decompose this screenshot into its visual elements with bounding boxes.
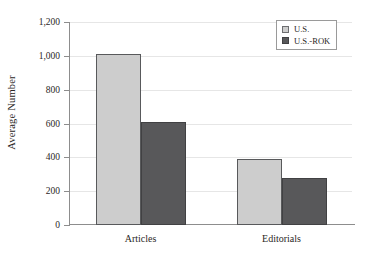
bar-chart: Average Number 02004006008001,0001,200 A… (0, 0, 367, 267)
y-tick-mark (64, 56, 70, 57)
legend-swatch-icon (282, 26, 289, 33)
y-tick-mark (64, 124, 70, 125)
category-label: Editorials (262, 233, 301, 244)
y-tick-mark (64, 225, 70, 226)
y-tick-mark (64, 90, 70, 91)
bar-articles-u-s (96, 54, 141, 225)
chart-legend: U.S.U.S.-ROK (276, 20, 337, 50)
y-tick-label: 800 (0, 85, 60, 95)
legend-entry: U.S.-ROK (282, 37, 330, 46)
y-tick-label: 0 (0, 220, 60, 230)
legend-label: U.S. (294, 25, 309, 34)
y-tick-mark (64, 191, 70, 192)
bar-editorials-u-s-rok (282, 178, 327, 225)
legend-entry: U.S. (282, 25, 330, 34)
y-tick-label: 600 (0, 119, 60, 129)
y-tick-label: 200 (0, 186, 60, 196)
legend-swatch-icon (282, 37, 289, 44)
y-tick-label: 400 (0, 152, 60, 162)
y-tick-mark (64, 157, 70, 158)
bar-editorials-u-s (237, 159, 282, 225)
legend-label: U.S.-ROK (294, 37, 330, 46)
y-tick-label: 1,200 (0, 17, 60, 27)
bar-articles-u-s-rok (141, 122, 186, 225)
y-tick-mark (64, 22, 70, 23)
category-label: Articles (125, 233, 157, 244)
y-tick-label: 1,000 (0, 51, 60, 61)
